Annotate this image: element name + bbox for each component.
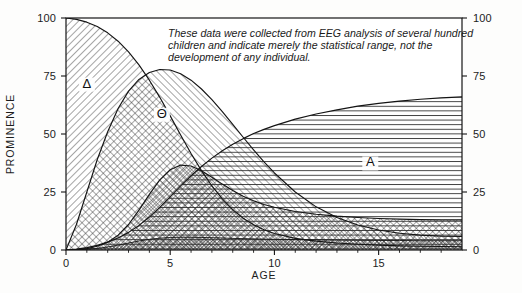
y-axis-title: PROMINENCE: [4, 94, 16, 174]
annotation-line-1: These data were collected from EEG analy…: [168, 27, 474, 39]
y-tick-label: 75: [44, 70, 56, 82]
y-tick-label-right: 25: [473, 186, 485, 198]
y-tick-label-right: 0: [473, 244, 479, 256]
y-tick-label-right: 75: [473, 70, 485, 82]
series-label-delta: Δ: [82, 76, 91, 91]
series-label-alpha: A: [366, 154, 375, 169]
x-axis-title: AGE: [252, 269, 277, 281]
x-tick-label: 0: [63, 257, 69, 269]
y-tick-label: 25: [44, 186, 56, 198]
x-tick-label: 10: [268, 257, 280, 269]
chart-canvas: 05101502550751000255075100 AGE PROMINENC…: [0, 0, 522, 293]
y-tick-label-right: 50: [473, 128, 485, 140]
y-tick-label: 100: [37, 12, 56, 24]
chart-annotation-note: These data were collected from EEG analy…: [162, 24, 474, 68]
x-tick-label: 5: [167, 257, 173, 269]
annotation-line-3: development of any individual.: [168, 51, 311, 63]
annotation-line-2: children and indicate merely the statist…: [168, 39, 433, 51]
eeg-prominence-chart: 05101502550751000255075100 AGE PROMINENC…: [0, 0, 522, 293]
y-tick-label: 0: [50, 244, 56, 256]
y-tick-label-right: 100: [473, 12, 492, 24]
series-label-theta: Θ: [157, 106, 167, 121]
x-tick-label: 15: [372, 257, 384, 269]
y-tick-label: 50: [44, 128, 56, 140]
